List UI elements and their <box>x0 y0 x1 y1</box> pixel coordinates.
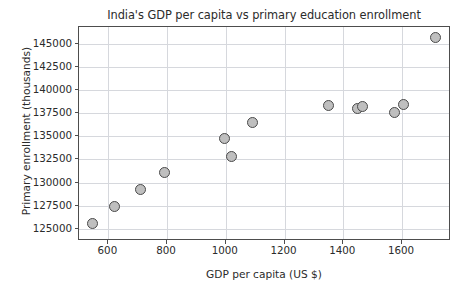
x-tick-label: 1600 <box>388 244 414 256</box>
x-tick-label: 1000 <box>212 244 238 256</box>
scatter-point <box>109 201 120 212</box>
y-tick-label: 145000 <box>33 37 72 49</box>
y-tick-label: 130000 <box>33 176 72 188</box>
gridline-horizontal <box>79 159 449 160</box>
x-tick-mark <box>107 240 108 244</box>
scatter-point <box>398 99 409 110</box>
x-axis-label: GDP per capita (US $) <box>78 268 450 280</box>
gridline-horizontal <box>79 136 449 137</box>
y-tick-label: 132500 <box>33 152 72 164</box>
y-tick-label: 140000 <box>33 83 72 95</box>
gridline-horizontal <box>79 183 449 184</box>
y-tick-label: 125000 <box>33 222 72 234</box>
chart-figure: India's GDP per capita vs primary educat… <box>0 0 457 291</box>
gridline-vertical <box>402 27 403 239</box>
y-tick-label: 142500 <box>33 60 72 72</box>
scatter-point <box>247 117 258 128</box>
gridline-vertical <box>343 27 344 239</box>
x-tick-mark <box>284 240 285 244</box>
x-tick-mark <box>225 240 226 244</box>
x-tick-mark <box>342 240 343 244</box>
gridline-horizontal <box>79 90 449 91</box>
scatter-point <box>357 101 368 112</box>
x-axis-tick-marks <box>78 240 450 244</box>
scatter-point <box>389 107 400 118</box>
x-tick-mark <box>166 240 167 244</box>
plot-area <box>78 26 450 240</box>
scatter-point <box>226 151 237 162</box>
x-axis-tick-labels: 6008001000120014001600 <box>78 244 450 260</box>
scatter-point <box>135 184 146 195</box>
x-tick-label: 600 <box>98 244 118 256</box>
y-axis-tick-labels: 1250001275001300001325001350001375001400… <box>0 26 72 240</box>
y-tick-label: 137500 <box>33 106 72 118</box>
gridline-horizontal <box>79 229 449 230</box>
x-tick-mark <box>401 240 402 244</box>
gridline-horizontal <box>79 67 449 68</box>
scatter-point <box>219 133 230 144</box>
gridline-vertical <box>167 27 168 239</box>
gridline-vertical <box>285 27 286 239</box>
scatter-point <box>159 167 170 178</box>
scatter-point <box>323 100 334 111</box>
y-tick-label: 127500 <box>33 199 72 211</box>
gridline-horizontal <box>79 44 449 45</box>
chart-title: India's GDP per capita vs primary educat… <box>78 8 450 22</box>
y-tick-label: 135000 <box>33 129 72 141</box>
gridline-horizontal <box>79 206 449 207</box>
x-tick-label: 800 <box>156 244 176 256</box>
x-tick-label: 1200 <box>270 244 296 256</box>
x-tick-label: 1400 <box>329 244 355 256</box>
scatter-point <box>87 218 98 229</box>
scatter-point <box>430 32 441 43</box>
